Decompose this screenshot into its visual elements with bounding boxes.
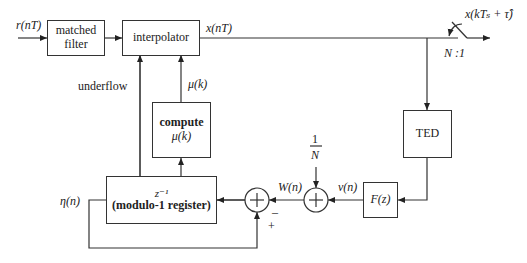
w-label: W(n) [278, 181, 302, 193]
compute-mu-label: μ(k) [172, 130, 191, 144]
input-signal-label: r(nT) [16, 19, 41, 31]
matched-filter-line1: matched [56, 24, 97, 38]
mu-label: μ(k) [188, 78, 207, 90]
loop-filter-label: F(z) [371, 193, 391, 207]
one-over-n-denominator: N [311, 149, 319, 161]
decimation-label: N :1 [444, 47, 465, 59]
compute-mu-block: compute μ(k) [152, 102, 211, 158]
interpolator-block: interpolator [122, 20, 200, 56]
ted-label: TED [416, 127, 439, 141]
interpolator-label: interpolator [133, 31, 189, 45]
interpolator-output-label: x(nT) [206, 22, 232, 34]
matched-filter-block: matched filter [47, 20, 105, 56]
register-name-label: (modulo-1 register) [112, 199, 211, 213]
plus-sign: + [268, 220, 275, 232]
ted-block: TED [403, 110, 452, 158]
matched-filter-line2: filter [64, 38, 87, 52]
minus-sign: – [272, 206, 278, 218]
underflow-label: underflow [78, 80, 127, 92]
one-over-n-numerator: 1 [312, 133, 318, 145]
eta-label: η(n) [60, 195, 80, 207]
output-signal-label: x(kTₛ + τ̂) [465, 8, 513, 20]
modulo-register-block: z⁻¹ (modulo-1 register) [106, 176, 217, 224]
compute-label: compute [160, 116, 204, 130]
v-label: v(n) [338, 181, 357, 193]
loop-filter-block: F(z) [363, 182, 398, 218]
